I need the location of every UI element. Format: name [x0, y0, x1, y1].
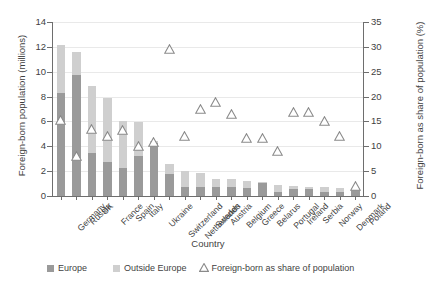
y-axis-right-tick-mark — [364, 196, 369, 197]
legend-item-share[interactable]: Foreign-born as share of population — [199, 263, 355, 274]
gridline — [53, 146, 363, 147]
bar-segment-europe — [88, 153, 97, 196]
bar-segment-europe — [196, 187, 205, 196]
y-axis-left-ticks: 02468101214 — [0, 0, 46, 293]
y-axis-left-tick-label: 4 — [6, 141, 46, 151]
marker-triangle-share — [164, 44, 175, 54]
bar-segment-europe — [57, 93, 66, 196]
marker-triangle-share — [133, 141, 144, 151]
bar-segment-outside-europe — [196, 173, 205, 187]
bar-segment-europe — [243, 188, 252, 196]
bar-stack[interactable] — [305, 187, 314, 196]
x-axis-tick-mark — [309, 196, 310, 200]
x-axis-tick-mark — [355, 196, 356, 200]
y-axis-left-tick-mark — [47, 47, 52, 48]
bar-stack[interactable] — [212, 179, 221, 196]
bar-segment-outside-europe — [274, 185, 283, 191]
bar-stack[interactable] — [88, 86, 97, 196]
y-axis-left-tick-mark — [47, 97, 52, 98]
bar-stack[interactable] — [103, 98, 112, 196]
marker-triangle-share — [288, 107, 299, 117]
bar-stack[interactable] — [320, 187, 329, 196]
bar-segment-europe — [289, 189, 298, 196]
y-axis-right-tick-mark — [364, 97, 369, 98]
gridline — [53, 22, 363, 23]
legend-label-share: Foreign-born as share of population — [212, 263, 355, 273]
legend-item-outside-europe[interactable]: Outside Europe — [113, 263, 187, 273]
bar-stack[interactable] — [274, 185, 283, 196]
gridline — [53, 171, 363, 172]
y-axis-right-tick-mark — [364, 121, 369, 122]
bar-segment-europe — [305, 189, 314, 196]
y-axis-right-tick-mark — [364, 72, 369, 73]
bar-stack[interactable] — [72, 52, 81, 196]
marker-triangle-share — [210, 97, 221, 107]
marker-triangle-share — [102, 131, 113, 141]
marker-triangle-share — [350, 181, 361, 191]
marker-triangle-share — [117, 125, 128, 135]
bar-stack[interactable] — [165, 164, 174, 196]
y-axis-left-tick-mark — [47, 171, 52, 172]
x-axis-tick-mark — [154, 196, 155, 200]
bar-stack[interactable] — [150, 141, 159, 196]
y-axis-right-tick-label: 15 — [371, 116, 411, 126]
bar-stack[interactable] — [336, 188, 345, 196]
bar-segment-outside-europe — [243, 181, 252, 188]
bar-stack[interactable] — [134, 122, 143, 196]
bar-segment-europe — [103, 162, 112, 196]
bar-segment-outside-europe — [305, 187, 314, 188]
bar-segment-europe — [165, 174, 174, 196]
y-axis-right-tick-mark — [364, 146, 369, 147]
legend-label-europe: Europe — [58, 263, 87, 273]
legend-item-europe[interactable]: Europe — [47, 263, 87, 273]
gridline — [53, 47, 363, 48]
x-axis-tick-mark — [138, 196, 139, 200]
bar-segment-europe — [212, 187, 221, 196]
y-axis-right-tick-label: 20 — [371, 92, 411, 102]
y-axis-left-tick-label: 6 — [6, 116, 46, 126]
y-axis-left-tick-mark — [47, 196, 52, 197]
bar-stack[interactable] — [258, 182, 267, 196]
marker-triangle-share — [179, 131, 190, 141]
x-axis-tick-mark — [200, 196, 201, 200]
gridline — [53, 72, 363, 73]
bar-stack[interactable] — [243, 181, 252, 196]
x-axis-tick-mark — [107, 196, 108, 200]
bar-segment-europe — [258, 183, 267, 196]
bar-segment-europe — [119, 168, 128, 196]
y-axis-left-tick-mark — [47, 146, 52, 147]
bar-segment-europe — [134, 156, 143, 196]
bar-segment-outside-europe — [258, 182, 267, 183]
x-axis-tick-mark — [76, 196, 77, 200]
bar-stack[interactable] — [227, 179, 236, 196]
x-axis-tick-mark — [278, 196, 279, 200]
chart-container: Foreign-born population (millions) Forei… — [0, 0, 430, 293]
gridline — [53, 97, 363, 98]
x-axis-line — [52, 196, 364, 197]
y-axis-left-tick-label: 8 — [6, 92, 46, 102]
marker-triangle-share — [195, 104, 206, 114]
y-axis-left-tick-label: 2 — [6, 166, 46, 176]
plot-area — [53, 22, 363, 196]
bar-stack[interactable] — [289, 186, 298, 196]
x-axis-tick-mark — [231, 196, 232, 200]
x-axis-tick-mark — [216, 196, 217, 200]
legend-swatch-europe — [47, 265, 54, 272]
bar-stack[interactable] — [181, 171, 190, 196]
bar-segment-outside-europe — [320, 187, 329, 191]
x-axis-tick-mark — [293, 196, 294, 200]
bar-segment-outside-europe — [72, 52, 81, 76]
bar-segment-outside-europe — [88, 86, 97, 153]
bar-stack[interactable] — [196, 173, 205, 196]
y-axis-right-tick-mark — [364, 171, 369, 172]
y-axis-left-tick-label: 12 — [6, 42, 46, 52]
bar-segment-europe — [150, 143, 159, 196]
legend-swatch-outside-europe — [113, 265, 120, 272]
y-axis-right-tick-label: 30 — [371, 42, 411, 52]
y-axis-left-tick-mark — [47, 121, 52, 122]
x-axis-tick-label: Ukraine — [166, 201, 194, 229]
marker-triangle-share — [257, 133, 268, 143]
bar-segment-europe — [72, 75, 81, 196]
x-axis-tick-mark — [169, 196, 170, 200]
marker-triangle-share — [226, 109, 237, 119]
